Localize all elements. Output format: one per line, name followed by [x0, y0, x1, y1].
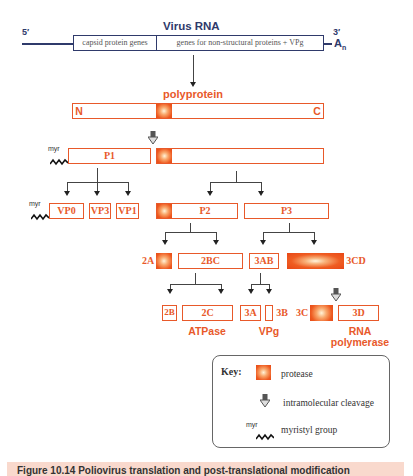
- p2-protease: [157, 204, 172, 218]
- n-terminus-label: N: [74, 105, 84, 117]
- 2c-label: 2C: [182, 307, 233, 318]
- key-protease-icon: [256, 365, 271, 380]
- arrowhead-icon: [167, 289, 173, 294]
- key-title: Key:: [221, 366, 242, 377]
- rna-5-line: [22, 43, 73, 45]
- 2bc-branch-bar: [170, 284, 222, 285]
- p1-branch-stem: [97, 168, 98, 182]
- arrowhead-icon: [258, 191, 264, 196]
- myr-label-vp0: myr: [29, 200, 41, 207]
- p2-label: P2: [172, 205, 238, 216]
- arrowhead-icon: [248, 289, 254, 294]
- key-protease-label: protease: [281, 369, 313, 379]
- translation-arrow-line: [193, 55, 194, 83]
- poly-a-label: A: [334, 37, 342, 49]
- rna-genome-box: capsid protein genes genes for non-struc…: [73, 35, 324, 51]
- p2p3-branch-bar: [210, 182, 262, 183]
- c-terminus-label: C: [312, 105, 322, 117]
- 3d-label: 3D: [338, 307, 379, 318]
- arrowhead-icon: [213, 240, 219, 245]
- arrowhead-icon: [218, 289, 224, 294]
- function-vpg: VPg: [252, 325, 286, 337]
- 3c-label: 3C: [295, 307, 309, 318]
- arrowhead-icon: [266, 289, 272, 294]
- protein-2a-protease: [156, 253, 172, 269]
- p3-branch-stem: [289, 223, 290, 232]
- arrowhead-icon: [64, 191, 70, 196]
- figure-caption-text: Figure 10.14 Poliovirus translation and …: [17, 465, 350, 476]
- key-myristyl-label: myristyl group: [281, 425, 337, 435]
- vp3-label: VP3: [89, 205, 111, 216]
- 3ab-branch-stem: [260, 273, 261, 284]
- rna-title: Virus RNA: [163, 20, 220, 32]
- intramolecular-cleavage-icon-1: [148, 131, 158, 145]
- polyprotein-title: polyprotein: [163, 88, 223, 100]
- p2p3-branch-stem: [236, 171, 237, 182]
- 3ab-branch-bar: [251, 284, 270, 285]
- translation-arrowhead-icon: [190, 82, 196, 87]
- p2-branch-stem: [190, 223, 191, 232]
- myr-label-p1: myr: [48, 145, 60, 152]
- arrowhead-icon: [162, 240, 168, 245]
- rna-segment-capsid: capsid protein genes: [74, 36, 157, 50]
- p1-branch-bar: [67, 182, 129, 183]
- 3cd-label: 3CD: [345, 255, 367, 266]
- vp0-label: VP0: [49, 205, 84, 216]
- poly-a-tail: An: [334, 37, 346, 51]
- rna-segment-nonstructural: genes for non-structural proteins + VPg: [157, 36, 323, 50]
- myristyl-icon-p1: [50, 152, 68, 170]
- protein-3c-protease: [310, 305, 333, 321]
- rna-3-line: [324, 43, 332, 45]
- polyprotein-bar: [72, 103, 324, 119]
- function-rna-polymerase-line2: polymerase: [330, 336, 390, 348]
- polyprotein-protease: [156, 104, 172, 118]
- poly-a-sub: n: [342, 44, 346, 51]
- 3ab-label: 3AB: [249, 255, 279, 266]
- p2p3-precursor: [156, 148, 324, 164]
- key-cleavage-icon: [260, 394, 270, 408]
- key-cleavage-label: intramolecular cleavage: [283, 398, 374, 408]
- three-prime-label: 3′: [333, 27, 340, 37]
- p3-label: P3: [244, 205, 329, 216]
- arrowhead-icon: [207, 191, 213, 196]
- key-myristyl-icon: [256, 427, 274, 445]
- 2b-label: 2B: [162, 307, 177, 317]
- 2bc-label: 2BC: [178, 255, 243, 266]
- arrowhead-icon: [125, 191, 131, 196]
- arrowhead-icon: [311, 240, 317, 245]
- protein-3b: [265, 305, 273, 321]
- arrowhead-icon: [94, 191, 100, 196]
- vp1-label: VP1: [116, 205, 139, 216]
- p1-label: P1: [68, 150, 151, 161]
- 3b-label: 3B: [275, 307, 289, 318]
- myristyl-icon-vp0: [31, 207, 49, 225]
- nonstructural-genes-label: genes for non-structural proteins + VPg: [177, 38, 304, 47]
- arrowhead-icon: [260, 240, 266, 245]
- p2p3-protease: [157, 149, 172, 163]
- protein-3cd-protease: [287, 253, 344, 269]
- intramolecular-cleavage-icon-2: [331, 288, 341, 302]
- function-atpase: ATPase: [182, 325, 232, 337]
- figure-caption: Figure 10.14 Poliovirus translation and …: [7, 462, 404, 476]
- 3a-label: 3A: [240, 307, 261, 318]
- p2-branch-bar: [165, 232, 217, 233]
- capsid-genes-label: capsid protein genes: [82, 38, 147, 47]
- p3-branch-bar: [263, 232, 315, 233]
- five-prime-label: 5′: [22, 27, 29, 37]
- 2bc-branch-stem: [195, 273, 196, 284]
- 2a-label: 2A: [141, 255, 155, 266]
